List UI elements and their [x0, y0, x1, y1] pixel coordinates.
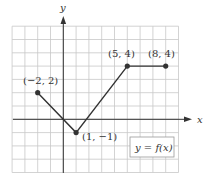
y-axis-label: y	[59, 2, 66, 13]
point-label-neg2-2: (−2, 2)	[23, 75, 58, 86]
data-point	[125, 64, 130, 69]
data-point	[35, 90, 40, 95]
point-label-8-4: (8, 4)	[148, 48, 175, 59]
function-graph: x y (−2, 2) (1, −1) (5, 4) (8, 4) y = f(…	[0, 0, 206, 183]
data-point	[74, 130, 79, 135]
x-axis-label: x	[197, 114, 203, 125]
x-axis-arrow-icon	[184, 117, 192, 123]
y-axis-arrow-icon	[61, 16, 67, 24]
axes: x y	[13, 2, 203, 173]
function-label: y = f(x)	[134, 142, 173, 153]
point-label-1-neg1: (1, −1)	[82, 131, 117, 142]
data-point	[163, 64, 168, 69]
point-label-5-4: (5, 4)	[108, 48, 135, 59]
